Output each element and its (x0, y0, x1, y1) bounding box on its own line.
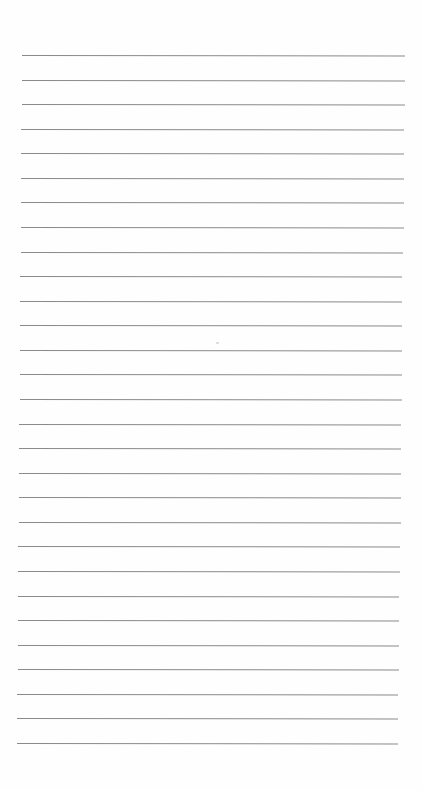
ruled-line (17, 718, 398, 720)
ruled-line (21, 178, 404, 180)
ruled-line (18, 669, 399, 671)
ruled-line (20, 276, 402, 278)
ruled-line (19, 399, 401, 401)
ruled-line (20, 301, 402, 303)
ruled-line (20, 325, 402, 327)
ruled-line (21, 202, 404, 204)
ruled-line (19, 448, 401, 450)
ruled-line (22, 80, 405, 82)
ruled-line (17, 743, 398, 745)
ruled-line (19, 497, 401, 499)
ruled-line (22, 104, 405, 106)
ruled-line (19, 424, 401, 426)
ruled-line (18, 645, 399, 647)
ruled-line (18, 546, 400, 548)
ruled-line (21, 153, 404, 155)
ruled-line (19, 473, 401, 475)
ruled-line (20, 374, 402, 376)
ruled-line (21, 227, 404, 229)
ruled-line (22, 55, 405, 57)
ruled-line (19, 522, 401, 524)
ruled-line (18, 596, 399, 598)
ruled-line (18, 620, 399, 622)
ruled-line (21, 252, 403, 254)
ruled-line (18, 571, 400, 573)
paper-speck (216, 342, 219, 344)
ruled-line (21, 129, 404, 131)
ruled-line (17, 694, 398, 696)
ruled-line (20, 350, 402, 352)
ruled-page (0, 0, 422, 790)
